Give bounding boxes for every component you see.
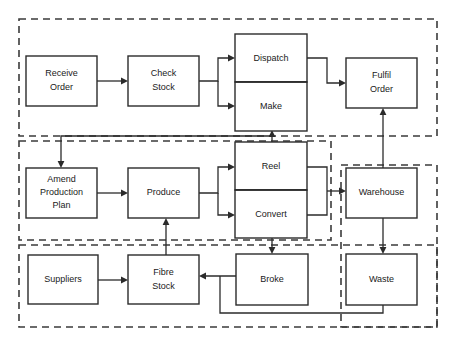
fulfil-order-label-line1: Fulfil: [372, 70, 391, 80]
connector-dispatch-to-fulfil-order: [307, 58, 344, 83]
nodes: Receive Order Check Stock Dispatch Make …: [26, 34, 417, 305]
node-suppliers[interactable]: Suppliers: [28, 255, 98, 304]
arrowhead-warehouse-in-left: [339, 188, 346, 195]
amend-production-plan-label-line3: Plan: [52, 200, 70, 210]
node-produce[interactable]: Produce: [128, 168, 199, 218]
fulfil-order-box[interactable]: [346, 58, 417, 108]
warehouse-label: Warehouse: [359, 187, 405, 197]
node-fibre-stock[interactable]: Fibre Stock: [128, 255, 199, 304]
node-reel-convert-group: Reel Convert: [235, 142, 307, 238]
check-stock-label-line1: Check: [151, 68, 177, 78]
make-label: Make: [260, 101, 282, 111]
connector-produce-to-reel: [199, 167, 233, 193]
node-warehouse[interactable]: Warehouse: [346, 168, 417, 218]
receive-order-box[interactable]: [26, 56, 97, 106]
receive-order-label-line1: Receive: [45, 68, 78, 78]
node-amend-production-plan[interactable]: Amend Production Plan: [26, 168, 97, 218]
arrowhead-dispatch-in: [228, 55, 235, 62]
amend-production-plan-label-line1: Amend: [47, 174, 76, 184]
arrowhead-amend-production-plan-in: [58, 161, 65, 168]
broke-label: Broke: [260, 274, 284, 284]
arrowhead-fibre-stock-in-right: [199, 273, 206, 280]
arrowhead-fulfil-order-in-left: [339, 80, 346, 87]
waste-label: Waste: [369, 274, 394, 284]
check-stock-label-line2: Stock: [152, 82, 175, 92]
fibre-stock-box[interactable]: [128, 255, 199, 304]
node-receive-order[interactable]: Receive Order: [26, 56, 97, 106]
connector-check-stock-to-dispatch: [199, 58, 233, 81]
convert-label: Convert: [255, 209, 287, 219]
suppliers-label: Suppliers: [44, 274, 82, 284]
reel-label: Reel: [262, 161, 281, 171]
fibre-stock-label-line1: Fibre: [153, 267, 174, 277]
node-dispatch-make-group: Dispatch Make: [235, 34, 307, 131]
node-waste[interactable]: Waste: [346, 254, 417, 305]
connector-reel-to-warehouse: [307, 167, 327, 215]
arrowhead-convert-in: [228, 212, 235, 219]
arrowhead-make-in: [228, 103, 235, 110]
arrowhead-check-stock-in: [121, 78, 128, 85]
arrowhead-reel-in: [228, 164, 235, 171]
arrowhead-fulfil-order-in-bottom: [380, 108, 387, 115]
node-fulfil-order[interactable]: Fulfil Order: [346, 58, 417, 108]
arrowhead-fibre-stock-in-left: [121, 277, 128, 284]
dispatch-label: Dispatch: [253, 53, 288, 63]
amend-production-plan-label-line2: Production: [40, 187, 83, 197]
connector-produce-to-convert: [218, 193, 233, 215]
check-stock-box[interactable]: [128, 56, 199, 106]
receive-order-label-line2: Order: [50, 82, 73, 92]
process-flow-diagram: Receive Order Check Stock Dispatch Make …: [0, 0, 456, 347]
connector-check-stock-to-make: [218, 81, 233, 106]
fibre-stock-label-line2: Stock: [152, 281, 175, 291]
arrowhead-produce-in-bottom: [163, 218, 170, 225]
node-check-stock[interactable]: Check Stock: [128, 56, 199, 106]
node-broke[interactable]: Broke: [236, 254, 308, 305]
produce-label: Produce: [147, 187, 181, 197]
flow-diagram-canvas: Receive Order Check Stock Dispatch Make …: [0, 0, 456, 347]
arrowhead-waste-in-top: [380, 247, 387, 254]
connectors: [58, 55, 387, 313]
fulfil-order-label-line2: Order: [370, 84, 393, 94]
arrowhead-produce-in-left: [121, 190, 128, 197]
arrowhead-broke-in-top: [269, 247, 276, 254]
